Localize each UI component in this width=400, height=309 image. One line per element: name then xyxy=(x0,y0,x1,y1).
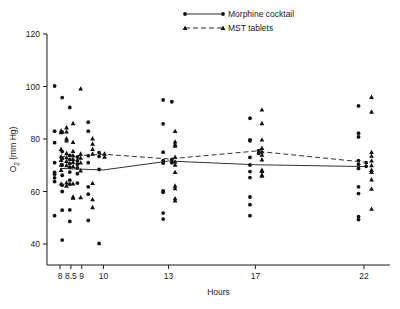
data-point-triangle xyxy=(173,170,178,174)
data-point-circle xyxy=(53,172,57,176)
data-point-circle xyxy=(68,178,72,182)
data-point-circle xyxy=(53,129,57,133)
data-point-circle xyxy=(68,208,72,212)
data-point-triangle xyxy=(64,151,69,155)
x-tick-label: 8 xyxy=(58,271,63,281)
legend-label-1: Morphine cocktail xyxy=(228,9,294,19)
data-point-triangle xyxy=(369,177,374,181)
data-point-circle xyxy=(60,208,64,212)
data-point-circle xyxy=(86,129,90,133)
scatter-plot: 40608010012088.5910131722HoursO2 (mm Hg)… xyxy=(0,0,400,309)
x-tick-label: 17 xyxy=(251,271,261,281)
data-point-circle xyxy=(357,218,361,222)
data-point-circle xyxy=(68,170,72,174)
data-point-circle xyxy=(161,211,165,215)
data-point-circle xyxy=(357,192,361,196)
data-point-circle xyxy=(357,167,361,171)
data-point-circle xyxy=(86,154,90,158)
data-point-triangle xyxy=(78,195,83,199)
legend-label-2: MST tablets xyxy=(228,23,273,33)
svg-text:O2 (mm Hg): O2 (mm Hg) xyxy=(8,127,20,173)
data-point-circle xyxy=(86,120,90,124)
data-point-triangle xyxy=(260,137,265,141)
data-point-circle xyxy=(364,161,368,165)
x-tick-label: 13 xyxy=(164,271,174,281)
x-axis-title: Hours xyxy=(207,287,230,297)
data-point-circle xyxy=(248,139,252,143)
data-point-triangle xyxy=(369,186,374,190)
data-point-circle xyxy=(364,164,368,168)
data-point-circle xyxy=(60,173,64,177)
data-point-circle xyxy=(53,214,57,218)
data-point-circle xyxy=(161,98,165,102)
data-point-circle xyxy=(248,155,252,159)
figure-container: 40608010012088.5910131722HoursO2 (mm Hg)… xyxy=(0,0,400,309)
data-point-circle xyxy=(161,190,165,194)
y-tick-label: 40 xyxy=(31,239,41,249)
data-point-circle xyxy=(60,96,64,100)
x-tick-label: 8.5 xyxy=(65,271,77,281)
data-point-circle xyxy=(60,190,64,194)
data-point-circle xyxy=(86,192,90,196)
data-point-circle xyxy=(357,131,361,135)
data-point-circle xyxy=(60,238,64,242)
data-point-circle xyxy=(53,84,57,88)
data-point-circle xyxy=(357,185,361,189)
legend-marker-circle xyxy=(183,12,187,16)
data-point-triangle xyxy=(71,121,76,125)
data-point-triangle xyxy=(90,141,95,145)
data-point-triangle xyxy=(90,205,95,209)
data-point-circle xyxy=(248,214,252,218)
data-point-triangle xyxy=(369,206,374,210)
data-point-circle xyxy=(161,217,165,221)
data-point-circle xyxy=(53,180,57,184)
data-point-circle xyxy=(248,176,252,180)
data-point-triangle xyxy=(369,158,374,162)
data-point-circle xyxy=(248,195,252,199)
data-point-triangle xyxy=(369,95,374,99)
data-point-circle xyxy=(86,161,90,165)
data-point-circle xyxy=(53,176,57,180)
data-point-circle xyxy=(53,141,57,145)
data-point-triangle xyxy=(78,151,83,155)
data-point-circle xyxy=(75,181,79,185)
y-tick-label: 100 xyxy=(26,82,40,92)
y-tick-label: 80 xyxy=(31,134,41,144)
data-point-circle xyxy=(357,104,361,108)
data-point-circle xyxy=(86,218,90,222)
axis-spines xyxy=(47,34,390,265)
data-point-circle xyxy=(68,106,72,110)
x-tick-label: 22 xyxy=(359,271,369,281)
data-point-triangle xyxy=(64,125,69,129)
data-point-circle xyxy=(97,154,101,158)
data-point-circle xyxy=(248,116,252,120)
data-point-circle xyxy=(86,185,90,189)
data-point-triangle xyxy=(90,147,95,151)
mean-line-morphine xyxy=(60,161,364,170)
data-point-circle xyxy=(161,150,165,154)
data-point-triangle xyxy=(369,109,374,113)
y-tick-label: 60 xyxy=(31,187,41,197)
legend-marker-circle xyxy=(221,12,225,16)
data-point-circle xyxy=(357,135,361,139)
data-point-triangle xyxy=(369,163,374,167)
data-point-circle xyxy=(170,100,174,104)
data-point-triangle xyxy=(260,121,265,125)
x-tick-label: 10 xyxy=(99,271,109,281)
data-point-triangle xyxy=(59,147,64,151)
data-point-triangle xyxy=(90,136,95,140)
data-point-triangle xyxy=(260,157,265,161)
data-point-circle xyxy=(161,122,165,126)
data-point-circle xyxy=(53,161,57,165)
data-point-triangle xyxy=(64,129,69,133)
x-tick-label: 9 xyxy=(79,271,84,281)
data-point-triangle xyxy=(90,197,95,201)
data-point-triangle xyxy=(260,107,265,111)
data-point-circle xyxy=(97,242,101,246)
data-point-triangle xyxy=(78,86,83,90)
data-point-triangle xyxy=(173,129,178,133)
data-point-circle xyxy=(357,162,361,166)
data-point-circle xyxy=(68,220,72,224)
data-point-triangle xyxy=(71,149,76,153)
data-point-triangle xyxy=(71,140,76,144)
